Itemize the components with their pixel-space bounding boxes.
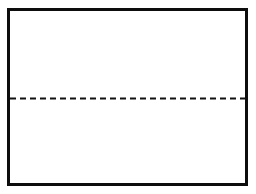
outer-rectangle	[7, 8, 248, 186]
figure-canvas	[0, 0, 256, 194]
